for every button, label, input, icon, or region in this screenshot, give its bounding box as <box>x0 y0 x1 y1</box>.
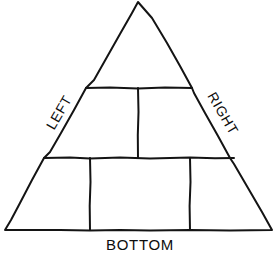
divider-lower-vertical-left <box>90 158 91 230</box>
divider-upper-vertical <box>138 88 139 158</box>
pyramid-diagram-canvas: LEFT RIGHT BOTTOM <box>0 0 280 258</box>
divider-middle-horizontal <box>44 158 234 159</box>
divider-lower-vertical-right <box>190 158 191 230</box>
bottom-edge-label: BOTTOM <box>106 236 174 253</box>
pyramid-diagram: LEFT RIGHT BOTTOM <box>0 0 280 258</box>
